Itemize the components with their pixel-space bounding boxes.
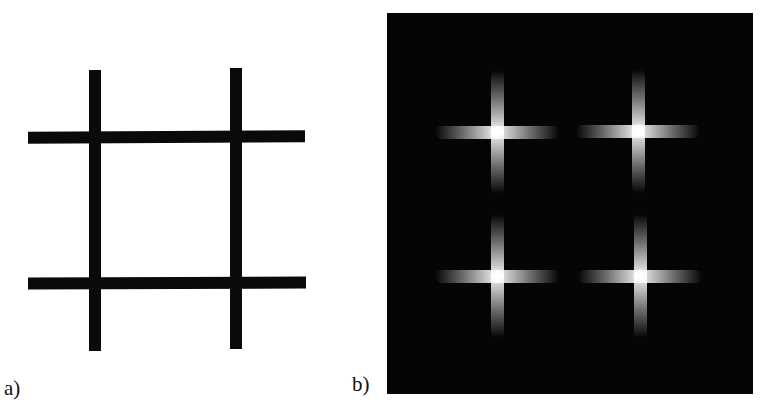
vertical-bar-right: [230, 68, 242, 349]
vertical-bar-left: [89, 70, 101, 351]
glow-cross-center: [633, 269, 647, 283]
glow-cross-center: [490, 125, 504, 139]
horizontal-bar-top: [28, 130, 305, 143]
panel-b-image: [387, 13, 753, 394]
panel-a-label: a): [4, 378, 20, 399]
glow-cross-center: [631, 124, 645, 138]
panel-b-label: b): [352, 374, 370, 395]
glow-cross-center: [490, 269, 504, 283]
horizontal-bar-bottom: [28, 277, 306, 290]
